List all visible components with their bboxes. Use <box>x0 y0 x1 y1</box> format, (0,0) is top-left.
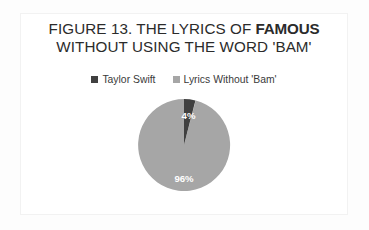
legend-swatch-icon <box>91 76 98 83</box>
legend-swatch-icon <box>173 76 180 83</box>
legend-item-lyrics-without-bam[interactable]: Lyrics Without 'Bam' <box>173 74 277 85</box>
pie-chart-area: 4% 96% <box>21 98 347 198</box>
legend-item-label: Lyrics Without 'Bam' <box>184 74 277 85</box>
chart-title-line-1: FIGURE 13. THE LYRICS OF FAMOUS <box>21 20 347 38</box>
chart-title-emphasis: FAMOUS <box>256 20 320 37</box>
chart-title-line-2: WITHOUT USING THE WORD 'BAM' <box>21 38 347 56</box>
legend-item-label: Taylor Swift <box>102 74 155 85</box>
legend-item-taylor-swift[interactable]: Taylor Swift <box>91 74 155 85</box>
pie-chart: 4% 96% <box>137 98 231 192</box>
chart-legend: Taylor Swift Lyrics Without 'Bam' <box>21 74 347 85</box>
pie-label-taylor-swift: 4% <box>182 110 196 121</box>
pie-label-lyrics-without-bam: 96% <box>174 173 194 184</box>
chart-title: FIGURE 13. THE LYRICS OF FAMOUS WITHOUT … <box>21 20 347 56</box>
chart-title-line-1-text: FIGURE 13. THE LYRICS OF <box>49 20 256 37</box>
chart-frame: FIGURE 13. THE LYRICS OF FAMOUS WITHOUT … <box>20 13 348 215</box>
